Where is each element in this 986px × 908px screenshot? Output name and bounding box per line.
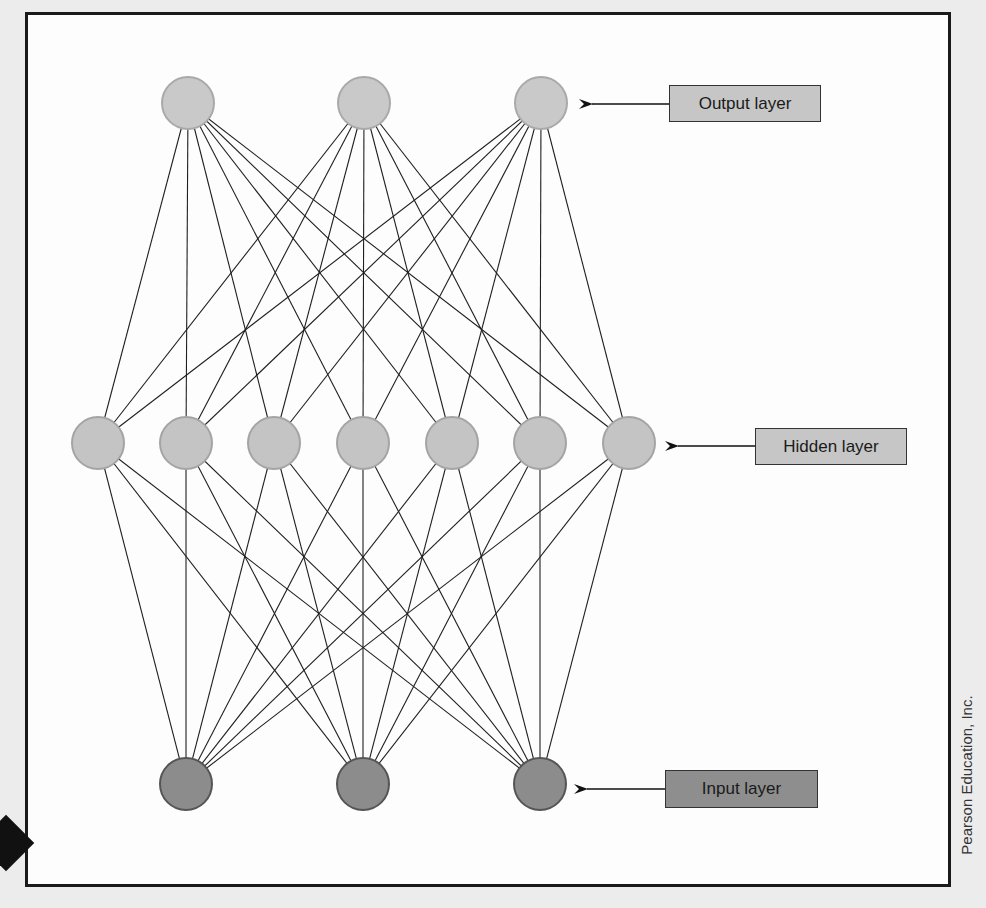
connection-line xyxy=(274,103,541,443)
connection-line xyxy=(186,443,452,784)
output-layer-node xyxy=(338,77,390,129)
hidden-layer-node xyxy=(426,417,478,469)
hidden-layer-node xyxy=(337,417,389,469)
output-layer-node xyxy=(515,77,567,129)
connection-line xyxy=(186,443,629,784)
hidden-layer-node xyxy=(514,417,566,469)
connection-line xyxy=(541,103,629,443)
connection-line xyxy=(363,103,541,443)
credit-text: Pearson Education, Inc. xyxy=(958,695,975,854)
connection-line xyxy=(540,443,629,784)
input-layer-node xyxy=(337,758,389,810)
connection-line xyxy=(186,103,188,443)
hidden-layer-node xyxy=(248,417,300,469)
hidden-layer-node xyxy=(72,417,124,469)
hidden-layer-node xyxy=(603,417,655,469)
output-layer-node xyxy=(162,77,214,129)
output-layer-label: Output layer xyxy=(669,85,821,122)
connection-line xyxy=(98,103,188,443)
hidden-layer-node xyxy=(160,417,212,469)
connection-line xyxy=(98,103,541,443)
input-layer-node xyxy=(514,758,566,810)
input-layer-node xyxy=(160,758,212,810)
connection-line xyxy=(452,103,541,443)
connection-line xyxy=(186,443,274,784)
hidden-layer-label: Hidden layer xyxy=(755,428,907,465)
connection-line xyxy=(363,443,629,784)
connection-line xyxy=(540,103,541,443)
connection-line xyxy=(98,443,186,784)
connection-line xyxy=(98,103,364,443)
input-layer-label: Input layer xyxy=(665,770,818,808)
